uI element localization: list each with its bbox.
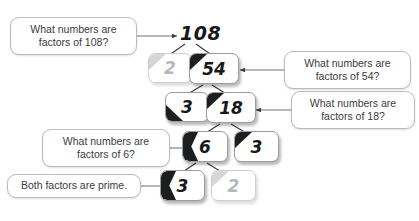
tree-node-108: 108 (180, 22, 221, 44)
tree-node-3-c: 3 (160, 170, 205, 201)
callout-factors-of-6: What numbers are factors of 6? (42, 129, 170, 167)
node-value: 3 (166, 93, 208, 121)
node-value: 6 (183, 132, 227, 161)
node-value: 2 (212, 171, 255, 200)
factor-tree-diagram: 108 2 54 3 18 6 3 3 2 What numbers are f… (0, 0, 419, 221)
node-value: 3 (161, 171, 204, 200)
tree-node-2-a: 2 (148, 53, 192, 83)
tree-node-54: 54 (189, 53, 239, 84)
tree-node-6: 6 (182, 131, 228, 162)
tree-node-3-a: 3 (165, 92, 209, 122)
callout-factors-of-54: What numbers are factors of 54? (284, 51, 411, 89)
node-value: 54 (190, 54, 238, 83)
callout-factors-of-18: What numbers are factors of 18? (291, 91, 415, 129)
callout-both-factors-prime: Both factors are prime. (7, 174, 141, 198)
tree-node-2-b: 2 (211, 170, 256, 201)
tree-node-3-b: 3 (234, 131, 279, 162)
node-value: 3 (235, 132, 278, 161)
callout-text: What numbers are factors of 54? (290, 57, 405, 84)
callout-text: Both factors are prime. (13, 179, 135, 192)
node-value: 108 (180, 22, 221, 44)
callout-text: What numbers are factors of 108? (16, 23, 131, 50)
node-value: 18 (207, 93, 255, 122)
tree-node-18: 18 (206, 92, 256, 123)
callout-factors-of-108: What numbers are factors of 108? (10, 17, 137, 55)
node-value: 2 (149, 54, 191, 82)
callout-text: What numbers are factors of 6? (48, 135, 164, 162)
callout-text: What numbers are factors of 18? (297, 97, 409, 124)
